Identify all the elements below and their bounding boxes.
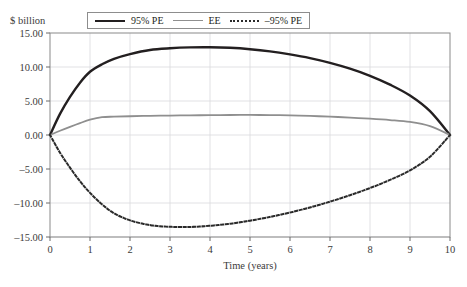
y-tick-label: 5.00 <box>25 96 43 107</box>
x-tick-label: 4 <box>207 244 213 255</box>
plot-area-wrapper: 15.0010.005.000.00–5.00–10.00–15.0001234… <box>0 0 467 287</box>
y-tick-label: 0.00 <box>25 130 43 141</box>
axis-tick-labels: 15.0010.005.000.00–5.00–10.00–15.0001234… <box>13 28 455 255</box>
x-tick-label: 0 <box>47 244 52 255</box>
x-tick-label: 8 <box>367 244 372 255</box>
x-tick-label: 10 <box>445 244 456 255</box>
axis-ticks <box>46 33 450 241</box>
grid-lines <box>50 33 450 237</box>
x-tick-label: 2 <box>127 244 132 255</box>
chart-figure: $ billion 95% PE EE –95% PE 15.0010.005.… <box>0 0 467 287</box>
x-axis-title: Time (years) <box>223 260 277 272</box>
x-tick-label: 1 <box>87 244 92 255</box>
y-tick-label: –15.00 <box>13 232 43 243</box>
y-tick-label: 15.00 <box>19 28 43 39</box>
x-tick-label: 3 <box>167 244 172 255</box>
x-tick-label: 6 <box>287 244 292 255</box>
y-tick-label: –5.00 <box>18 164 43 175</box>
y-tick-label: 10.00 <box>19 62 43 73</box>
y-tick-label: –10.00 <box>13 198 43 209</box>
x-tick-label: 9 <box>407 244 412 255</box>
x-tick-label: 5 <box>247 244 252 255</box>
x-tick-label: 7 <box>327 244 332 255</box>
line-chart-svg: 15.0010.005.000.00–5.00–10.00–15.0001234… <box>0 0 467 287</box>
